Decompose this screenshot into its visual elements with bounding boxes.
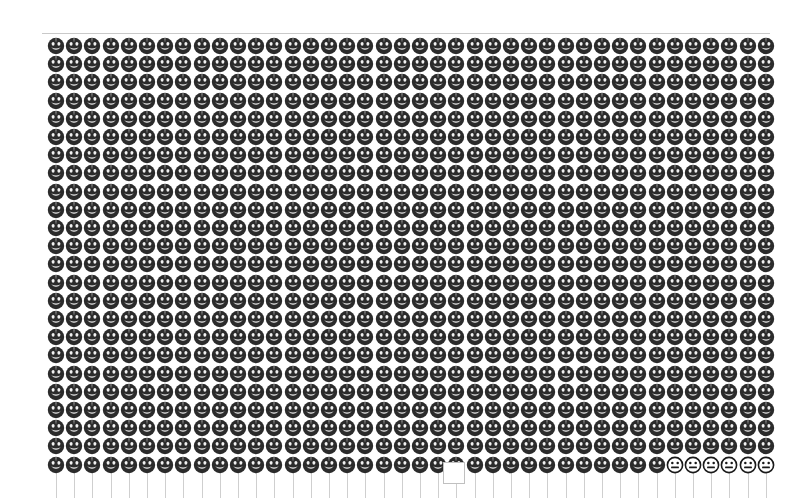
smiley-face-filled-icon[interactable] bbox=[411, 401, 429, 419]
smiley-face-filled-icon[interactable] bbox=[466, 37, 484, 55]
smiley-face-filled-icon[interactable] bbox=[466, 55, 484, 73]
smiley-face-filled-icon[interactable] bbox=[156, 183, 174, 201]
smiley-face-filled-icon[interactable] bbox=[575, 37, 593, 55]
smiley-face-filled-icon[interactable] bbox=[320, 328, 338, 346]
smiley-face-filled-icon[interactable] bbox=[83, 164, 101, 182]
smiley-face-filled-icon[interactable] bbox=[284, 437, 302, 455]
smiley-face-filled-icon[interactable] bbox=[447, 292, 465, 310]
smiley-face-filled-icon[interactable] bbox=[83, 419, 101, 437]
smiley-face-filled-icon[interactable] bbox=[47, 401, 65, 419]
smiley-face-filled-icon[interactable] bbox=[575, 164, 593, 182]
smiley-face-filled-icon[interactable] bbox=[447, 310, 465, 328]
smiley-face-filled-icon[interactable] bbox=[502, 164, 520, 182]
smiley-face-filled-icon[interactable] bbox=[65, 73, 83, 91]
smiley-face-filled-icon[interactable] bbox=[593, 456, 611, 474]
smiley-face-filled-icon[interactable] bbox=[265, 437, 283, 455]
smiley-face-filled-icon[interactable] bbox=[320, 92, 338, 110]
smiley-face-filled-icon[interactable] bbox=[120, 383, 138, 401]
smiley-face-filled-icon[interactable] bbox=[265, 365, 283, 383]
smiley-face-filled-icon[interactable] bbox=[757, 346, 775, 364]
smiley-face-filled-icon[interactable] bbox=[593, 310, 611, 328]
smiley-face-filled-icon[interactable] bbox=[338, 219, 356, 237]
smiley-face-filled-icon[interactable] bbox=[320, 128, 338, 146]
smiley-face-filled-icon[interactable] bbox=[411, 346, 429, 364]
smiley-face-filled-icon[interactable] bbox=[65, 274, 83, 292]
smiley-face-filled-icon[interactable] bbox=[575, 110, 593, 128]
smiley-face-filled-icon[interactable] bbox=[265, 292, 283, 310]
smiley-face-filled-icon[interactable] bbox=[356, 146, 374, 164]
smiley-face-filled-icon[interactable] bbox=[138, 274, 156, 292]
smiley-face-filled-icon[interactable] bbox=[320, 456, 338, 474]
smiley-face-filled-icon[interactable] bbox=[247, 346, 265, 364]
smiley-face-filled-icon[interactable] bbox=[484, 401, 502, 419]
smiley-face-filled-icon[interactable] bbox=[229, 456, 247, 474]
smiley-face-filled-icon[interactable] bbox=[593, 255, 611, 273]
smiley-face-filled-icon[interactable] bbox=[429, 55, 447, 73]
smiley-face-filled-icon[interactable] bbox=[193, 383, 211, 401]
smiley-face-filled-icon[interactable] bbox=[684, 183, 702, 201]
smiley-face-filled-icon[interactable] bbox=[466, 328, 484, 346]
smiley-face-filled-icon[interactable] bbox=[83, 456, 101, 474]
smiley-face-filled-icon[interactable] bbox=[138, 146, 156, 164]
smiley-face-filled-icon[interactable] bbox=[648, 164, 666, 182]
smiley-face-filled-icon[interactable] bbox=[229, 419, 247, 437]
smiley-face-filled-icon[interactable] bbox=[265, 73, 283, 91]
smiley-face-filled-icon[interactable] bbox=[502, 110, 520, 128]
smiley-face-filled-icon[interactable] bbox=[356, 328, 374, 346]
smiley-face-filled-icon[interactable] bbox=[393, 292, 411, 310]
smiley-face-filled-icon[interactable] bbox=[629, 55, 647, 73]
smiley-face-filled-icon[interactable] bbox=[47, 237, 65, 255]
smiley-face-filled-icon[interactable] bbox=[484, 92, 502, 110]
smiley-face-filled-icon[interactable] bbox=[502, 310, 520, 328]
smiley-face-filled-icon[interactable] bbox=[356, 219, 374, 237]
smiley-face-filled-icon[interactable] bbox=[247, 365, 265, 383]
smiley-face-filled-icon[interactable] bbox=[484, 419, 502, 437]
smiley-face-filled-icon[interactable] bbox=[557, 73, 575, 91]
smiley-face-filled-icon[interactable] bbox=[356, 365, 374, 383]
smiley-face-filled-icon[interactable] bbox=[666, 401, 684, 419]
smiley-face-filled-icon[interactable] bbox=[666, 419, 684, 437]
smiley-face-filled-icon[interactable] bbox=[538, 73, 556, 91]
smiley-face-filled-icon[interactable] bbox=[447, 92, 465, 110]
smiley-face-filled-icon[interactable] bbox=[629, 383, 647, 401]
smiley-face-filled-icon[interactable] bbox=[593, 346, 611, 364]
smiley-face-filled-icon[interactable] bbox=[102, 456, 120, 474]
smiley-face-filled-icon[interactable] bbox=[557, 383, 575, 401]
smiley-face-filled-icon[interactable] bbox=[593, 237, 611, 255]
smiley-face-filled-icon[interactable] bbox=[229, 401, 247, 419]
smiley-face-filled-icon[interactable] bbox=[65, 255, 83, 273]
smiley-face-filled-icon[interactable] bbox=[502, 146, 520, 164]
smiley-face-filled-icon[interactable] bbox=[447, 146, 465, 164]
smiley-face-filled-icon[interactable] bbox=[174, 237, 192, 255]
smiley-face-filled-icon[interactable] bbox=[739, 274, 757, 292]
smiley-face-filled-icon[interactable] bbox=[156, 37, 174, 55]
smiley-face-filled-icon[interactable] bbox=[611, 310, 629, 328]
smiley-face-filled-icon[interactable] bbox=[65, 201, 83, 219]
smiley-face-filled-icon[interactable] bbox=[83, 383, 101, 401]
smiley-face-filled-icon[interactable] bbox=[156, 401, 174, 419]
smiley-face-filled-icon[interactable] bbox=[156, 55, 174, 73]
smiley-face-filled-icon[interactable] bbox=[65, 383, 83, 401]
smiley-face-filled-icon[interactable] bbox=[739, 201, 757, 219]
smiley-face-filled-icon[interactable] bbox=[611, 164, 629, 182]
smiley-face-filled-icon[interactable] bbox=[611, 37, 629, 55]
smiley-face-filled-icon[interactable] bbox=[538, 383, 556, 401]
smiley-face-filled-icon[interactable] bbox=[338, 292, 356, 310]
smiley-face-filled-icon[interactable] bbox=[466, 73, 484, 91]
smiley-face-filled-icon[interactable] bbox=[47, 183, 65, 201]
smiley-face-filled-icon[interactable] bbox=[193, 110, 211, 128]
smiley-face-filled-icon[interactable] bbox=[211, 146, 229, 164]
smiley-face-filled-icon[interactable] bbox=[684, 37, 702, 55]
smiley-face-filled-icon[interactable] bbox=[648, 92, 666, 110]
smiley-face-filled-icon[interactable] bbox=[174, 201, 192, 219]
smiley-face-filled-icon[interactable] bbox=[684, 255, 702, 273]
smiley-face-filled-icon[interactable] bbox=[193, 73, 211, 91]
smiley-face-filled-icon[interactable] bbox=[538, 146, 556, 164]
smiley-face-filled-icon[interactable] bbox=[593, 37, 611, 55]
smiley-face-filled-icon[interactable] bbox=[666, 292, 684, 310]
smiley-face-filled-icon[interactable] bbox=[211, 365, 229, 383]
smiley-face-filled-icon[interactable] bbox=[65, 183, 83, 201]
smiley-face-filled-icon[interactable] bbox=[538, 456, 556, 474]
smiley-face-filled-icon[interactable] bbox=[174, 365, 192, 383]
smiley-face-filled-icon[interactable] bbox=[393, 164, 411, 182]
